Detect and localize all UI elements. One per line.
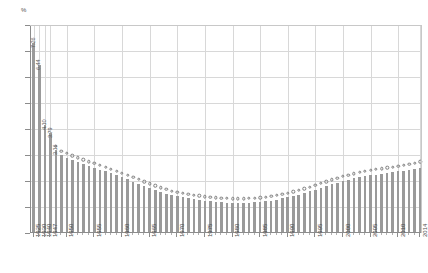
x-axis-minor-tick-mark bbox=[381, 233, 382, 235]
x-axis-minor-tick-mark bbox=[281, 233, 282, 235]
x-axis-minor-tick-mark bbox=[336, 233, 337, 235]
plot-area: 7.266.444.103.793.16 bbox=[30, 25, 422, 233]
x-axis-minor-tick-mark bbox=[165, 233, 166, 235]
x-axis-minor-tick-mark bbox=[309, 233, 310, 235]
x-axis-minor-tick-mark bbox=[353, 233, 354, 235]
bar-data-label: 6.44 bbox=[35, 59, 41, 70]
x-axis-tick-mark bbox=[259, 233, 260, 237]
y-axis-tick-mark bbox=[25, 25, 30, 26]
x-axis-minor-tick-mark bbox=[160, 233, 161, 235]
data-labels: 7.266.444.103.793.16 bbox=[31, 25, 422, 232]
y-axis-unit-label: % bbox=[21, 7, 26, 13]
x-axis-minor-tick-mark bbox=[220, 233, 221, 235]
x-axis-minor-tick-mark bbox=[171, 233, 172, 235]
x-axis-minor-tick-mark bbox=[248, 233, 249, 235]
x-axis-minor-tick-mark bbox=[403, 233, 404, 235]
x-axis-tick-mark bbox=[397, 233, 398, 237]
y-axis-tick-mark bbox=[25, 51, 30, 52]
x-axis-minor-tick-mark bbox=[392, 233, 393, 235]
x-axis-minor-tick-mark bbox=[198, 233, 199, 235]
x-axis-minor-tick-mark bbox=[325, 233, 326, 235]
x-axis-minor-tick-mark bbox=[182, 233, 183, 235]
x-axis-tick-label: 2014 bbox=[422, 224, 428, 237]
bar-data-label: 3.79 bbox=[47, 128, 53, 139]
y-axis-tick-mark bbox=[25, 181, 30, 182]
x-axis-minor-tick-mark bbox=[77, 233, 78, 235]
x-axis-minor-tick-mark bbox=[375, 233, 376, 235]
x-axis-tick-mark bbox=[232, 233, 233, 237]
y-axis-tick-mark bbox=[25, 155, 30, 156]
y-axis-tick-mark bbox=[25, 233, 30, 234]
x-axis-minor-tick-mark bbox=[408, 233, 409, 235]
x-axis-tick-mark bbox=[287, 233, 288, 237]
x-axis-tick-mark bbox=[342, 233, 343, 237]
x-axis-minor-tick-mark bbox=[237, 233, 238, 235]
x-axis-minor-tick-mark bbox=[132, 233, 133, 235]
x-axis-minor-tick-mark bbox=[215, 233, 216, 235]
x-axis-tick-mark bbox=[176, 233, 177, 237]
x-axis-minor-tick-mark bbox=[359, 233, 360, 235]
x-axis-minor-tick-mark bbox=[88, 233, 89, 235]
x-axis-minor-tick-mark bbox=[270, 233, 271, 235]
plot-frame-right bbox=[421, 25, 422, 233]
x-axis-minor-tick-mark bbox=[209, 233, 210, 235]
y-axis-tick-mark bbox=[25, 77, 30, 78]
x-axis-tick-mark bbox=[66, 233, 67, 237]
x-axis-minor-tick-mark bbox=[99, 233, 100, 235]
x-axis-minor-tick-mark bbox=[303, 233, 304, 235]
x-axis-tick-mark bbox=[38, 233, 39, 237]
x-axis-tick-mark bbox=[33, 233, 34, 237]
x-axis-tick-mark bbox=[370, 233, 371, 237]
x-axis-minor-tick-mark bbox=[331, 233, 332, 235]
x-axis-minor-tick-mark bbox=[116, 233, 117, 235]
y-axis-tick-mark bbox=[25, 207, 30, 208]
x-axis-minor-tick-mark bbox=[110, 233, 111, 235]
x-axis-minor-tick-mark bbox=[298, 233, 299, 235]
x-axis-minor-tick-mark bbox=[226, 233, 227, 235]
x-axis-minor-tick-mark bbox=[276, 233, 277, 235]
x-axis-minor-tick-mark bbox=[138, 233, 139, 235]
x-axis-tick-mark bbox=[121, 233, 122, 237]
y-axis-tick-mark bbox=[25, 129, 30, 130]
plot-frame-top bbox=[30, 25, 422, 26]
x-axis-minor-tick-mark bbox=[386, 233, 387, 235]
x-axis-tick-mark bbox=[419, 233, 420, 237]
x-axis-minor-tick-mark bbox=[105, 233, 106, 235]
chart-container: % 7.266.444.103.793.16 012345678 1925193… bbox=[0, 0, 428, 273]
x-axis-tick-mark bbox=[149, 233, 150, 237]
x-axis-minor-tick-mark bbox=[154, 233, 155, 235]
x-axis-minor-tick-mark bbox=[292, 233, 293, 235]
x-axis-minor-tick-mark bbox=[254, 233, 255, 235]
x-axis-minor-tick-mark bbox=[193, 233, 194, 235]
x-axis-minor-tick-mark bbox=[265, 233, 266, 235]
x-axis-tick-mark bbox=[44, 233, 45, 237]
x-axis-tick-mark bbox=[204, 233, 205, 237]
x-axis-minor-tick-mark bbox=[414, 233, 415, 235]
x-axis-tick-mark bbox=[49, 233, 50, 237]
y-axis-tick-mark bbox=[25, 103, 30, 104]
x-axis-minor-tick-mark bbox=[320, 233, 321, 235]
x-axis-minor-tick-mark bbox=[143, 233, 144, 235]
x-axis-minor-tick-mark bbox=[243, 233, 244, 235]
bar-data-label: 7.26 bbox=[30, 38, 36, 49]
x-axis-minor-tick-mark bbox=[364, 233, 365, 235]
x-axis-tick-mark bbox=[314, 233, 315, 237]
x-axis-tick-mark bbox=[93, 233, 94, 237]
x-axis-minor-tick-mark bbox=[187, 233, 188, 235]
x-axis-minor-tick-mark bbox=[82, 233, 83, 235]
x-axis-minor-tick-mark bbox=[127, 233, 128, 235]
x-axis-minor-tick-mark bbox=[60, 233, 61, 235]
x-axis-minor-tick-mark bbox=[347, 233, 348, 235]
x-axis-minor-tick-mark bbox=[71, 233, 72, 235]
x-axis-minor-tick-mark bbox=[55, 233, 56, 235]
bar-data-label: 3.16 bbox=[52, 144, 58, 155]
